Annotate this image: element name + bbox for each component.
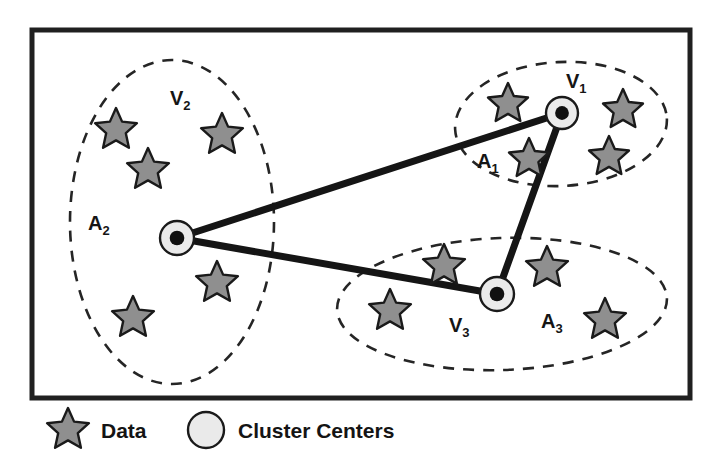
- data-star-icon: [201, 113, 243, 153]
- set-label-letter: A: [477, 150, 491, 172]
- diagram-frame-layer: [32, 30, 690, 398]
- data-star-icon: [526, 246, 568, 286]
- data-star-icon: [584, 298, 626, 338]
- set-label-subscript: 3: [555, 321, 562, 336]
- data-star-icon: [369, 289, 411, 329]
- set-label-cluster-1: A1: [477, 150, 499, 176]
- data-star-icon: [603, 89, 643, 127]
- cluster-center-dot-cluster-2: [170, 231, 185, 246]
- cluster-ellipse-layer: [70, 57, 670, 384]
- data-star-icon: [423, 244, 465, 284]
- diagram-canvas: V1A1V2A2V3A3 DataCluster Centers: [0, 0, 719, 465]
- cluster-diagram-figure: V1A1V2A2V3A3 DataCluster Centers: [0, 0, 719, 465]
- region-label-subscript: 2: [183, 98, 190, 113]
- set-label-letter: A: [88, 212, 102, 234]
- region-label-subscript: 3: [462, 325, 469, 340]
- cluster-center-dot-cluster-3: [490, 287, 505, 302]
- set-label-subscript: 1: [491, 161, 498, 176]
- region-label-subscript: 1: [579, 81, 586, 96]
- region-label-letter: V: [170, 87, 184, 109]
- data-star-icon: [95, 108, 137, 148]
- region-label-letter: V: [449, 314, 463, 336]
- data-star-icon: [488, 83, 528, 121]
- set-label-cluster-2: A2: [88, 212, 110, 238]
- connector-layer: [177, 113, 562, 294]
- legend-label-0: Data: [101, 419, 147, 442]
- region-label-cluster-1: V1: [566, 70, 587, 96]
- data-star-icon: [196, 261, 238, 301]
- data-star-icon: [112, 296, 154, 336]
- region-label-letter: V: [566, 70, 580, 92]
- cluster-center-dot-cluster-1: [555, 106, 569, 120]
- region-label-cluster-2: V2: [170, 87, 191, 113]
- set-label-cluster-3: A3: [541, 310, 563, 336]
- legend-layer: DataCluster Centers: [47, 408, 394, 448]
- set-label-letter: A: [541, 310, 555, 332]
- data-star-icon: [589, 136, 629, 174]
- region-label-cluster-3: V3: [449, 314, 470, 340]
- legend-circle-icon: [188, 412, 224, 448]
- diagram-border: [32, 30, 690, 398]
- data-star-icon: [127, 148, 169, 188]
- set-label-subscript: 2: [102, 223, 109, 238]
- legend-star-icon: [47, 408, 89, 448]
- legend-label-1: Cluster Centers: [238, 419, 394, 442]
